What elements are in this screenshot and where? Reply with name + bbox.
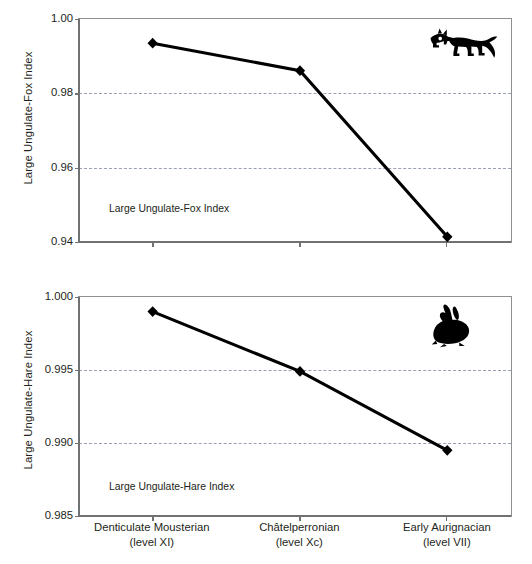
x-category-label-3-line2: (level VII) xyxy=(352,535,532,550)
y-tick-label-fox-096: 0.96 xyxy=(51,162,73,173)
fox-icon xyxy=(427,24,499,64)
y-tick-label-fox-100: 1.00 xyxy=(51,13,73,24)
y-tick-mark-fox-094 xyxy=(75,242,80,243)
x-category-label-3-line1: Early Aurignacian xyxy=(352,520,532,535)
data-point-hare-3 xyxy=(442,445,452,456)
hare-icon xyxy=(429,303,473,349)
series-line-hare xyxy=(153,312,448,451)
in-plot-annotation-fox: Large Ungulate-Fox Index xyxy=(109,203,229,214)
y-axis-title-fox: Large Ungulate-Fox Index xyxy=(22,28,34,208)
data-point-fox-1 xyxy=(147,38,157,49)
y-tick-label-fox-094: 0.94 xyxy=(51,236,73,247)
y-tick-label-hare-1000: 1.000 xyxy=(45,291,73,302)
data-point-hare-1 xyxy=(147,306,157,317)
y-tick-label-hare-0995: 0.995 xyxy=(45,364,73,375)
y-axis-title-hare: Large Ungulate-Hare Index xyxy=(22,310,34,490)
plot-area-fox: 1.00 0.98 0.96 0.94 xyxy=(78,18,512,243)
plot-area-hare: 1.000 0.995 0.990 0.985 xyxy=(78,296,512,517)
in-plot-annotation-hare: Large Ungulate-Hare Index xyxy=(109,481,234,492)
x-category-label-3: Early Aurignacian (level VII) xyxy=(352,520,532,549)
figure-two-panel-line-charts: Large Ungulate-Fox Index 1.00 0.98 0.96 … xyxy=(0,0,532,564)
panel-fox: Large Ungulate-Fox Index 1.00 0.98 0.96 … xyxy=(0,0,532,282)
y-tick-label-fox-098: 0.98 xyxy=(51,88,73,99)
y-tick-label-hare-0990: 0.990 xyxy=(45,437,73,448)
x-axis-category-labels: Denticulate Mousterian (level XI) Châtel… xyxy=(78,520,512,562)
y-tick-mark-hare-0985 xyxy=(75,516,80,517)
data-point-hare-2 xyxy=(295,366,305,377)
